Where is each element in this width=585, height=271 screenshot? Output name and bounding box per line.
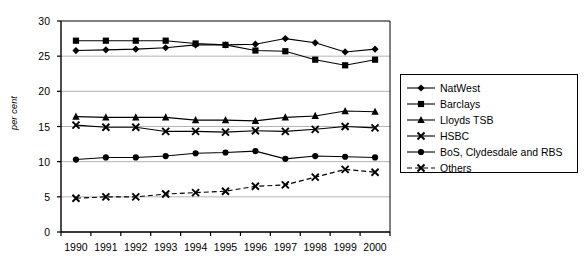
y-tick-20: 20 [22,86,50,96]
data-point [72,113,79,120]
legend-key [406,161,436,175]
data-point [133,154,139,160]
chart-legend: NatWestBarclaysLloyds TSBHSBCBoS, Clydes… [400,74,578,173]
series-hsbc [72,122,378,136]
data-point [282,156,288,162]
data-point [72,47,79,54]
data-point [282,48,288,54]
legend-item-others[interactable]: Others [406,160,573,176]
legend-label: Lloyds TSB [440,114,494,126]
data-point [133,38,139,44]
data-point [342,62,348,68]
data-point [342,48,349,55]
data-point [73,38,79,44]
data-point [103,154,109,160]
legend-key [406,145,436,159]
data-point [342,154,348,160]
legend-key [406,81,436,95]
data-point [103,38,109,44]
x-tick-2000: 2000 [357,242,393,252]
diamond-marker-icon [417,84,424,91]
y-tick-15: 15 [22,122,50,132]
legend-label: NatWest [440,82,480,94]
data-point [312,39,319,46]
circle-marker-icon [418,149,424,155]
legend-item-bos-clydesdale-and-rbs[interactable]: BoS, Clydesdale and RBS [406,144,573,160]
legend-key [406,113,436,127]
y-tick-0: 0 [22,227,50,237]
data-point [132,46,139,53]
data-point [222,42,228,48]
legend-key [406,129,436,143]
legend-item-lloyds-tsb[interactable]: Lloyds TSB [406,112,573,128]
data-point [192,40,198,46]
data-point [282,35,289,42]
legend-label: Others [440,162,472,174]
y-axis-title: per cent [9,83,19,143]
data-point [372,57,378,63]
y-tick-10: 10 [22,157,50,167]
legend-key [406,97,436,111]
data-point [102,46,109,53]
y-tick-30: 30 [22,16,50,26]
data-point [252,41,259,48]
data-point [252,47,258,53]
data-point [163,38,169,44]
series-bos-clydesdale-and-rbs [73,148,378,163]
legend-label: BoS, Clydesdale and RBS [440,146,563,158]
data-point [371,46,378,53]
data-point [222,149,228,155]
data-point [163,153,169,159]
y-tick-25: 25 [22,51,50,61]
data-point [162,44,169,51]
series-barclays [73,38,378,69]
legend-item-barclays[interactable]: Barclays [406,96,573,112]
legend-item-hsbc[interactable]: HSBC [406,128,573,144]
data-point [73,156,79,162]
y-tick-5: 5 [22,192,50,202]
series-line [76,169,375,198]
legend-label: HSBC [440,130,469,142]
line-chart: per cent 302520151050 199019911992199319… [0,0,585,271]
data-point [341,107,348,114]
series-lloyds-tsb [72,107,378,124]
data-point [312,153,318,159]
legend-item-natwest[interactable]: NatWest [406,80,573,96]
data-point [312,57,318,63]
legend-label: Barclays [440,98,480,110]
square-marker-icon [418,101,424,107]
data-point [372,154,378,160]
data-point [252,148,258,154]
data-point [192,150,198,156]
